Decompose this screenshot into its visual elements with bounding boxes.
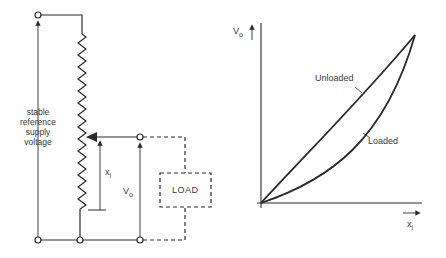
terminal-output-bottom xyxy=(137,237,143,243)
supply-label-line-3: supply xyxy=(8,127,68,137)
vo-subscript: o xyxy=(129,191,133,198)
y-axis-label: Vo xyxy=(233,27,243,36)
transfer-chart xyxy=(252,23,422,213)
terminal-output-top xyxy=(137,134,143,140)
xi-symbol: x xyxy=(105,167,110,177)
load-wire-bottom xyxy=(143,207,185,240)
unloaded-leader xyxy=(355,87,362,93)
top-wire xyxy=(41,15,82,34)
terminal-bottom-left xyxy=(35,237,41,243)
vo-label: Vo xyxy=(123,187,133,196)
unloaded-annotation: Unloaded xyxy=(315,74,354,83)
x-axis-subscript: i xyxy=(412,224,414,231)
load-label: LOAD xyxy=(172,186,199,195)
load-wire-top xyxy=(143,137,185,173)
terminal-top-left xyxy=(35,12,41,18)
y-axis-subscript: o xyxy=(239,31,243,38)
supply-voltage-label: stable reference supply voltage xyxy=(8,107,68,147)
wiper-arrowhead xyxy=(86,132,97,142)
unloaded-curve xyxy=(261,35,415,203)
supply-label-line-2: reference xyxy=(8,117,68,127)
supply-label-line-4: voltage xyxy=(8,137,68,147)
terminal-bottom-mid xyxy=(77,237,83,243)
xi-label: xi xyxy=(105,168,111,177)
x-axis-label: xi xyxy=(407,220,413,229)
loaded-annotation: Loaded xyxy=(368,137,398,146)
xi-subscript: i xyxy=(110,172,112,179)
resistor-zigzag xyxy=(78,34,86,209)
x-axis-symbol: x xyxy=(407,219,412,229)
supply-label-line-1: stable xyxy=(8,107,68,117)
